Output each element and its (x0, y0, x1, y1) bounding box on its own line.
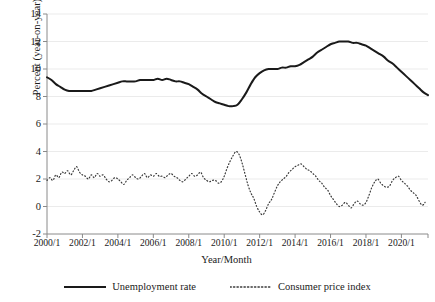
x-tick-label: 2010/1 (211, 238, 238, 248)
legend-swatch-dotted-icon (230, 282, 272, 292)
y-tick-label: 2 (15, 174, 41, 184)
chart-figure: Percent (year-on-year) -202468101214 200… (0, 0, 435, 302)
x-tick-label: 2004/1 (105, 238, 132, 248)
x-tick-label: 2018/1 (353, 238, 380, 248)
y-tick-label: 8 (15, 92, 41, 102)
y-tick-label: 6 (15, 119, 41, 129)
legend-label-unemployment-rate: Unemployment rate (112, 281, 196, 292)
y-tick-label: 12 (15, 37, 41, 47)
x-tick-label: 2006/1 (140, 238, 167, 248)
x-tick-label: 2002/1 (69, 238, 96, 248)
y-tick-label: 10 (15, 64, 41, 74)
y-tick-label: 4 (15, 147, 41, 157)
x-tick-label: 2014/1 (282, 238, 309, 248)
y-tick-label: 14 (15, 9, 41, 19)
x-tick-label: 2016/1 (317, 238, 344, 248)
x-tick-label: 2020/1 (388, 238, 415, 248)
legend-item-unemployment-rate: Unemployment rate (64, 281, 196, 292)
plot-area (47, 14, 428, 234)
y-tick-label: 0 (15, 202, 41, 212)
legend-item-consumer-price-index: Consumer price index (230, 281, 371, 292)
chart-canvas (47, 14, 428, 234)
x-tick-label: 2012/1 (246, 238, 273, 248)
legend-label-consumer-price-index: Consumer price index (278, 281, 371, 292)
chart-legend: Unemployment rate Consumer price index (0, 281, 435, 292)
x-axis-title: Year/Month (0, 254, 435, 265)
x-tick-label: 2008/1 (175, 238, 202, 248)
series-line-consumer-price-index (47, 151, 425, 214)
legend-swatch-solid-icon (64, 282, 106, 292)
x-tick-label: 2000/1 (34, 238, 61, 248)
